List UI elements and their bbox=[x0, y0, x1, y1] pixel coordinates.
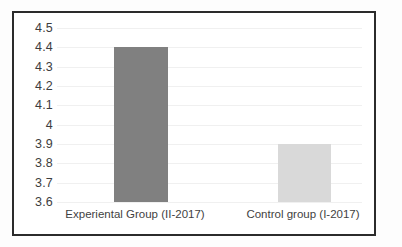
y-tick-label: 4 bbox=[19, 119, 53, 132]
y-tick-label: 3.7 bbox=[19, 177, 53, 190]
chart-frame: 4.5 4.4 4.3 4.2 4.1 4 3.9 3.8 3.7 3.6 bbox=[12, 11, 376, 236]
gridline bbox=[57, 105, 362, 106]
gridline bbox=[57, 125, 362, 126]
gridline bbox=[57, 47, 362, 48]
y-tick-label: 4.5 bbox=[19, 22, 53, 35]
chart-screenshot: 4.5 4.4 4.3 4.2 4.1 4 3.9 3.8 3.7 3.6 bbox=[0, 0, 402, 247]
y-tick-label: 4.4 bbox=[19, 41, 53, 54]
y-tick-label: 3.8 bbox=[19, 157, 53, 170]
y-tick-label: 3.9 bbox=[19, 138, 53, 151]
gridline bbox=[57, 67, 362, 68]
bar-control-group bbox=[278, 144, 331, 202]
gridline bbox=[57, 28, 362, 29]
y-tick-label: 4.2 bbox=[19, 80, 53, 93]
y-axis: 4.5 4.4 4.3 4.2 4.1 4 3.9 3.8 3.7 3.6 bbox=[14, 28, 53, 202]
gridline bbox=[57, 202, 362, 203]
gridline bbox=[57, 86, 362, 87]
x-category-label: Control group (I-2017) bbox=[223, 209, 383, 221]
x-axis: Experiental Group (II-2017) Control grou… bbox=[57, 209, 362, 233]
x-category-label: Experiental Group (II-2017) bbox=[51, 209, 219, 221]
bar-experiental-group bbox=[114, 47, 168, 202]
y-tick-label: 3.6 bbox=[19, 196, 53, 209]
plot-area bbox=[57, 28, 362, 202]
y-tick-label: 4.3 bbox=[19, 61, 53, 74]
y-tick-label: 4.1 bbox=[19, 99, 53, 112]
